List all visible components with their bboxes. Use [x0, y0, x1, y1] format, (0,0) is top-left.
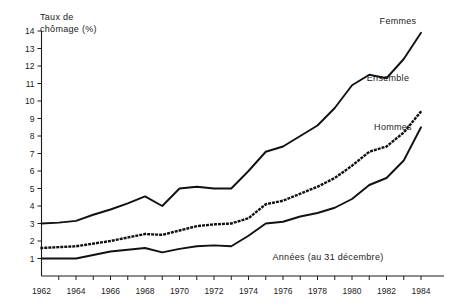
y-tick-label: 3 [30, 219, 35, 229]
series-label-ensemble: Ensemble [367, 73, 409, 83]
y-tick-label: 5 [30, 184, 35, 194]
x-tick-label: 1962 [32, 286, 51, 296]
y-tick-label: 8 [30, 131, 35, 141]
x-tick-label: 1978 [308, 286, 327, 296]
y-tick-label: 13 [25, 44, 35, 54]
y-tick-label: 14 [25, 26, 35, 36]
y-tick-label: 2 [30, 236, 35, 246]
unemployment-rate-chart: Taux de chômage (%) Années (au 31 décemb… [0, 0, 452, 306]
x-tick-label: 1966 [101, 286, 120, 296]
x-tick-label: 1984 [412, 286, 431, 296]
y-axis-title-line2: chômage (%) [40, 24, 97, 34]
y-tick-label: 11 [26, 79, 35, 89]
y-tick-label: 4 [30, 201, 35, 211]
x-tick-label: 1980 [343, 286, 362, 296]
x-tick-label: 1964 [67, 286, 86, 296]
x-tick-label: 1972 [205, 286, 224, 296]
y-tick-label: 1 [30, 254, 35, 264]
y-tick-label: 10 [25, 96, 35, 106]
x-axis-title: Années (au 31 décembre) [273, 252, 384, 262]
series-label-femmes: Femmes [380, 16, 417, 26]
y-axis-title-line1: Taux de [40, 12, 74, 22]
y-tick-label: 7 [30, 149, 35, 159]
chart-background [0, 0, 452, 306]
x-tick-label: 1968 [136, 286, 155, 296]
y-tick-label: 9 [30, 114, 35, 124]
x-tick-label: 1970 [170, 286, 189, 296]
x-tick-label: 1982 [377, 286, 396, 296]
y-tick-label: 12 [25, 61, 35, 71]
x-tick-label: 1974 [239, 286, 258, 296]
x-tick-label: 1976 [274, 286, 293, 296]
series-label-hommes: Hommes [374, 122, 412, 132]
y-tick-label: 6 [30, 166, 35, 176]
